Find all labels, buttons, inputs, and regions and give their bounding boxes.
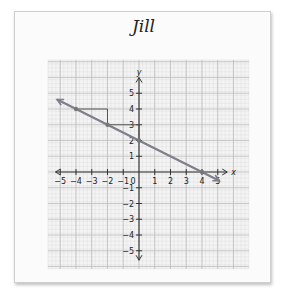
data-point bbox=[105, 123, 109, 127]
y-tick-label: −3 bbox=[122, 215, 134, 224]
data-point bbox=[200, 170, 204, 174]
y-tick-label: −4 bbox=[122, 231, 134, 240]
data-point bbox=[137, 138, 141, 142]
data-point bbox=[74, 107, 78, 111]
y-tick-label: 4 bbox=[129, 105, 134, 114]
x-tick-label: −4 bbox=[70, 177, 82, 186]
x-tick-label: −2 bbox=[102, 177, 114, 186]
x-tick-label: 2 bbox=[168, 177, 173, 186]
y-tick-label: 1 bbox=[129, 152, 134, 161]
x-tick-label: −5 bbox=[54, 177, 66, 186]
x-tick-label: 3 bbox=[184, 177, 189, 186]
x-axis-label: x bbox=[230, 168, 236, 177]
coordinate-plane: −5−4−3−2−1012345−5−4−3−2−112345xy bbox=[0, 0, 287, 296]
x-tick-label: 1 bbox=[152, 177, 157, 186]
y-tick-label: −2 bbox=[122, 200, 134, 209]
y-axis-label: y bbox=[136, 68, 142, 77]
y-tick-label: −1 bbox=[122, 184, 134, 193]
x-tick-label: −3 bbox=[86, 177, 98, 186]
y-tick-label: −5 bbox=[122, 247, 134, 256]
y-tick-label: 5 bbox=[129, 89, 134, 98]
x-tick-label: 4 bbox=[199, 177, 204, 186]
